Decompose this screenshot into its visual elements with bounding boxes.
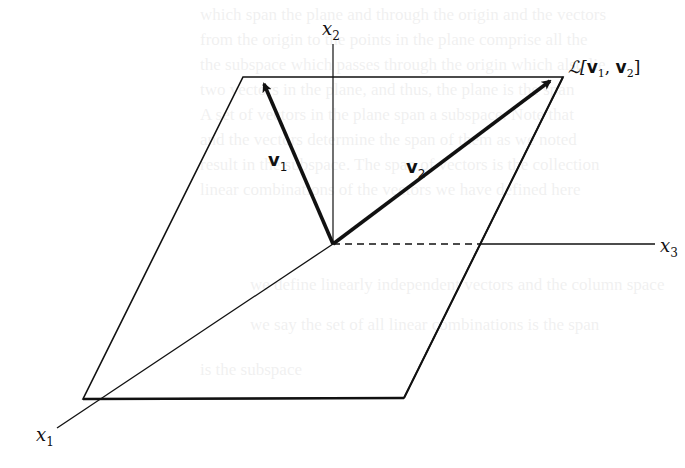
svg-text:and the vectors determine the: and the vectors determine the span of th… (200, 130, 577, 149)
svg-text:is the subspace: is the subspace (200, 360, 302, 379)
svg-text:linear combinations of the vec: linear combinations of the vectors we ha… (200, 180, 580, 199)
svg-text:which span the plane and throu: which span the plane and through the ori… (200, 5, 606, 24)
plane-bottom-edge (83, 398, 404, 399)
x1-axis-label: x1 (36, 424, 54, 449)
svg-text:result in the subspace. The sp: result in the subspace. The span of vect… (200, 155, 600, 174)
x1-axis (57, 244, 333, 428)
svg-text:from the origin to the points: from the origin to the points in the pla… (200, 30, 588, 49)
plane-right-edge (404, 77, 563, 398)
svg-text:A set of vectors in the plane: A set of vectors in the plane span a sub… (200, 105, 574, 124)
svg-text:the subspace which passes thro: the subspace which passes through the or… (200, 55, 606, 74)
span-plane-diagram: which span the plane and through the ori… (0, 0, 685, 468)
svg-text:we say the set of all linear c: we say the set of all linear combination… (250, 315, 600, 334)
x3-axis-label: x3 (660, 235, 678, 260)
plane-label: ℒ[v1, v2] (568, 57, 640, 80)
svg-text:two vectors in the plane, and: two vectors in the plane, and thus, the … (200, 80, 575, 99)
